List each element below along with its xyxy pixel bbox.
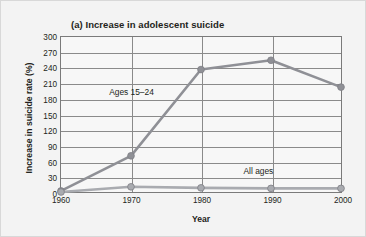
data-point-marker [338,84,345,91]
plot-area: 0306090120150180210240270300 19601970198… [60,36,342,193]
data-point-marker [128,183,135,190]
data-point-marker [268,185,275,192]
y-tick-label: 270 [11,48,57,57]
x-tick-label: 2000 [334,196,352,205]
x-axis-label: Year [60,214,342,224]
series-label-all-ages: All ages [243,166,273,176]
data-point-marker [198,185,205,192]
data-point-marker [128,152,135,159]
x-tick-label: 1970 [122,196,140,205]
y-tick-label: 30 [11,174,57,183]
y-tick-label: 60 [11,158,57,167]
series-group [58,57,345,195]
y-tick-label: 240 [11,64,57,73]
series-label-ages-15-24: Ages 15–24 [109,87,154,97]
data-point-marker [58,189,65,196]
y-tick-label: 0 [11,190,57,199]
y-tick-label: 210 [11,80,57,89]
y-tick-label: 180 [11,95,57,104]
chart-figure: (a) Increase in adolescent suicide Incre… [0,0,366,237]
chart-title: (a) Increase in adolescent suicide [71,19,224,30]
data-point-marker [198,66,205,73]
series-lines [61,37,341,192]
series-line [61,60,341,191]
y-tick-label: 90 [11,142,57,151]
x-tick-label: 1960 [52,196,70,205]
data-point-marker [268,57,275,64]
data-point-marker [338,185,345,192]
x-tick-label: 1990 [263,196,281,205]
x-tick-label: 1980 [193,196,211,205]
y-tick-label: 120 [11,127,57,136]
y-tick-label: 150 [11,111,57,120]
y-tick-label: 300 [11,33,57,42]
